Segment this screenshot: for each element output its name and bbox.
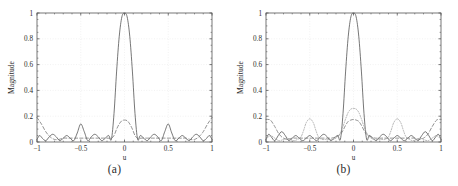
ytick-label: 0.4 (253, 87, 262, 95)
x-axis-label: u (123, 154, 127, 162)
ytick-label: 0.2 (24, 113, 33, 121)
xtick-label: −0.5 (303, 145, 316, 153)
y-axis-label: Magnitude (7, 60, 16, 94)
ytick-label: 0 (29, 139, 33, 147)
caption-b: (b) (229, 163, 458, 175)
xtick-label: 1 (439, 145, 443, 153)
plot-a: −1−0.500.5100.20.40.60.81uMagnitude (0, 0, 229, 186)
y-axis-label: Magnitude (236, 60, 245, 94)
ytick-label: 0.4 (24, 87, 33, 95)
plot-b: −1−0.500.5100.20.40.60.81uMagnitude (229, 0, 458, 186)
ytick-label: 0.8 (24, 35, 33, 43)
panel-a: −1−0.500.5100.20.40.60.81uMagnitude (a) (0, 0, 229, 186)
ytick-label: 0 (258, 139, 262, 147)
xtick-label: 0 (123, 145, 127, 153)
figure-container: −1−0.500.5100.20.40.60.81uMagnitude (a) … (0, 0, 458, 186)
caption-a: (a) (0, 163, 229, 175)
xtick-label: 0.5 (164, 145, 173, 153)
xtick-label: 0.5 (393, 145, 402, 153)
ytick-label: 0.6 (253, 61, 262, 69)
x-axis-label: u (352, 154, 356, 162)
ytick-label: 0.2 (253, 113, 262, 121)
xtick-label: 0 (352, 145, 356, 153)
ytick-label: 1 (258, 10, 262, 18)
xtick-label: 1 (210, 145, 214, 153)
ytick-label: 0.6 (24, 61, 33, 69)
ytick-label: 1 (29, 10, 33, 18)
xtick-label: −1 (33, 145, 41, 153)
ytick-label: 0.8 (253, 35, 262, 43)
panel-b: −1−0.500.5100.20.40.60.81uMagnitude (b) (229, 0, 458, 186)
xtick-label: −1 (262, 145, 270, 153)
xtick-label: −0.5 (74, 145, 87, 153)
